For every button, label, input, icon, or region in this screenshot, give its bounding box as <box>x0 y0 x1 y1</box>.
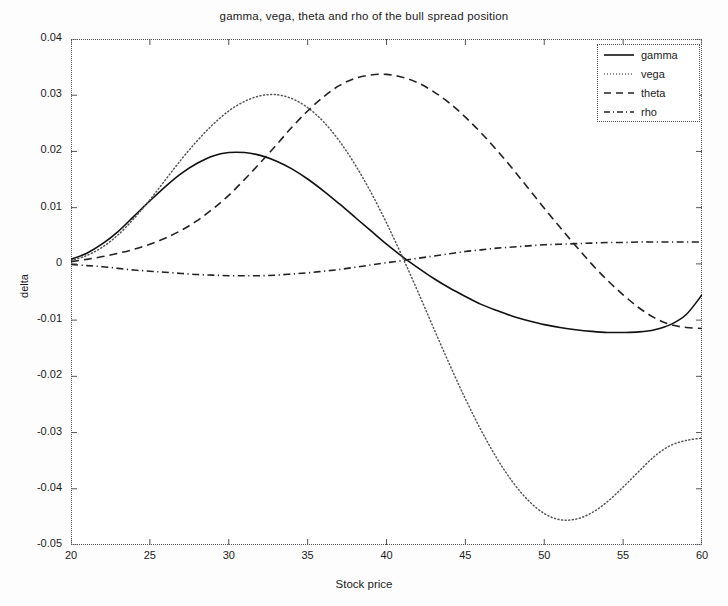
series-vega <box>71 94 702 520</box>
legend-label-vega: vega <box>635 68 665 80</box>
legend-box: gamma vega theta rho <box>597 44 700 122</box>
y-tick-label: -0.03 <box>0 425 62 437</box>
figure-root: gamma, vega, theta and rho of the bull s… <box>0 0 728 606</box>
x-tick-label: 30 <box>209 549 249 561</box>
legend-item[interactable]: theta <box>598 83 699 102</box>
x-tick-label: 20 <box>51 549 91 561</box>
y-tick-label: -0.04 <box>0 481 62 493</box>
y-tick-label: -0.05 <box>0 537 62 549</box>
y-tick-label: 0.01 <box>0 200 62 212</box>
y-tick-label: -0.01 <box>0 312 62 324</box>
x-tick-label: 45 <box>445 549 485 561</box>
x-tick-label: 60 <box>682 549 722 561</box>
y-tick-label: 0.04 <box>0 31 62 43</box>
x-tick-label: 40 <box>367 549 407 561</box>
y-tick-label: 0.03 <box>0 87 62 99</box>
x-tick-label: 25 <box>130 549 170 561</box>
series-rho <box>71 242 702 276</box>
legend-label-rho: rho <box>635 106 657 118</box>
legend-label-gamma: gamma <box>635 49 678 61</box>
x-tick-label: 55 <box>603 549 643 561</box>
legend-item[interactable]: vega <box>598 64 699 83</box>
x-tick-label: 50 <box>524 549 564 561</box>
legend-sample-rho <box>603 107 635 117</box>
legend-item[interactable]: rho <box>598 102 699 121</box>
y-tick-label: 0.02 <box>0 143 62 155</box>
legend-sample-theta <box>603 88 635 98</box>
legend-item[interactable]: gamma <box>598 45 699 64</box>
y-tick-label: 0 <box>0 256 62 268</box>
x-tick-label: 35 <box>288 549 328 561</box>
y-tick-label: -0.02 <box>0 368 62 380</box>
legend-sample-vega <box>603 69 635 79</box>
legend-label-theta: theta <box>635 87 665 99</box>
legend-sample-gamma <box>603 50 635 60</box>
chart-title: gamma, vega, theta and rho of the bull s… <box>0 10 728 22</box>
x-axis-label: Stock price <box>0 578 728 590</box>
